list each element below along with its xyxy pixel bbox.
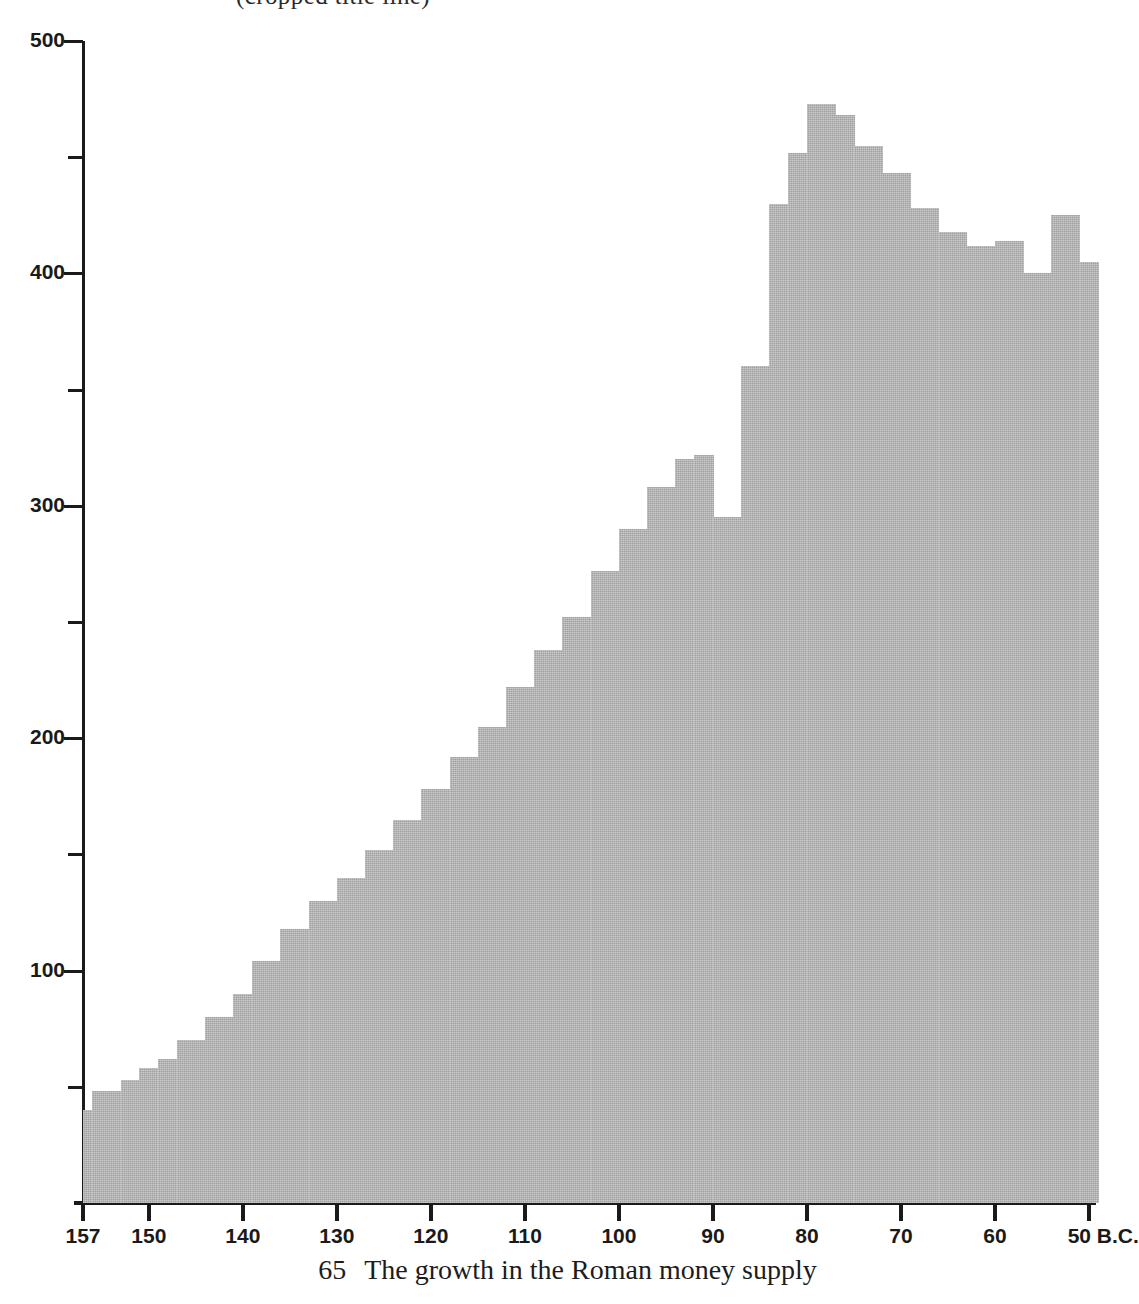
x-axis-label: 80 <box>795 1224 818 1248</box>
histogram-bar <box>337 878 366 1203</box>
x-axis-label: 90 <box>701 1224 724 1248</box>
x-axis-tick <box>335 1205 339 1221</box>
histogram-bar <box>788 153 807 1203</box>
x-axis-label: 110 <box>508 1224 542 1248</box>
histogram-bar <box>478 727 507 1203</box>
histogram-bar <box>939 232 968 1203</box>
histogram-bar <box>534 650 563 1203</box>
histogram-bar <box>121 1080 140 1203</box>
histogram-bar <box>647 487 676 1203</box>
x-axis-label: 70 <box>889 1224 912 1248</box>
histogram-bar <box>591 571 620 1203</box>
figure-caption: 65The growth in the Roman money supply <box>0 1254 1135 1286</box>
x-axis-tick <box>81 1205 85 1221</box>
histogram-bars <box>0 0 1135 1240</box>
histogram-bar <box>139 1068 158 1203</box>
x-axis-label: 50 B.C. <box>1068 1224 1139 1248</box>
x-axis-label: 150 <box>131 1224 166 1248</box>
histogram-bar <box>421 789 450 1203</box>
histogram-bar <box>882 173 911 1203</box>
x-axis-tick <box>805 1205 809 1221</box>
histogram-bar <box>309 901 338 1203</box>
x-axis-tick <box>523 1205 527 1221</box>
histogram-bar <box>741 366 770 1203</box>
histogram-bar <box>807 104 836 1203</box>
x-axis-label: 140 <box>225 1224 260 1248</box>
histogram-bar <box>1023 273 1052 1203</box>
histogram-bar <box>854 146 883 1203</box>
histogram-bar <box>713 517 742 1203</box>
x-axis-tick <box>429 1205 433 1221</box>
histogram-bar <box>450 757 479 1203</box>
histogram-bar <box>177 1040 206 1203</box>
x-axis-label: 120 <box>413 1224 448 1248</box>
histogram-bar <box>967 246 996 1203</box>
histogram-bar <box>506 687 535 1203</box>
histogram-bar <box>562 617 591 1203</box>
histogram-bar <box>393 820 422 1203</box>
x-axis-label: 130 <box>319 1224 354 1248</box>
x-axis-tick <box>147 1205 151 1221</box>
histogram-bar <box>910 208 939 1203</box>
chart-plot-area: 100200300400500 157150140130120110100908… <box>0 0 1135 1240</box>
x-axis-label: 157 <box>65 1224 100 1248</box>
x-axis-tick <box>993 1205 997 1221</box>
x-axis-tick <box>899 1205 903 1221</box>
x-axis-label: 100 <box>601 1224 636 1248</box>
histogram-bar <box>365 850 394 1203</box>
histogram-bar <box>995 241 1024 1203</box>
histogram-bar <box>694 455 713 1203</box>
histogram-bar <box>92 1091 121 1203</box>
histogram-bar <box>252 961 281 1203</box>
histogram-bar <box>1051 215 1080 1203</box>
histogram-bar <box>158 1059 177 1203</box>
caption-number: 65 <box>318 1254 346 1285</box>
histogram-bar <box>205 1017 234 1203</box>
histogram-bar <box>835 115 854 1203</box>
x-axis-tick <box>617 1205 621 1221</box>
histogram-bar <box>1080 262 1099 1203</box>
caption-text: The growth in the Roman money supply <box>364 1254 817 1285</box>
histogram-bar <box>619 529 648 1203</box>
histogram-bar <box>233 994 252 1203</box>
x-axis-tick <box>241 1205 245 1221</box>
histogram-bar <box>769 204 788 1203</box>
histogram-bar <box>280 929 309 1203</box>
x-axis-tick <box>711 1205 715 1221</box>
histogram-bar <box>675 459 694 1203</box>
x-axis-label: 60 <box>983 1224 1006 1248</box>
x-axis-tick <box>1087 1205 1091 1221</box>
